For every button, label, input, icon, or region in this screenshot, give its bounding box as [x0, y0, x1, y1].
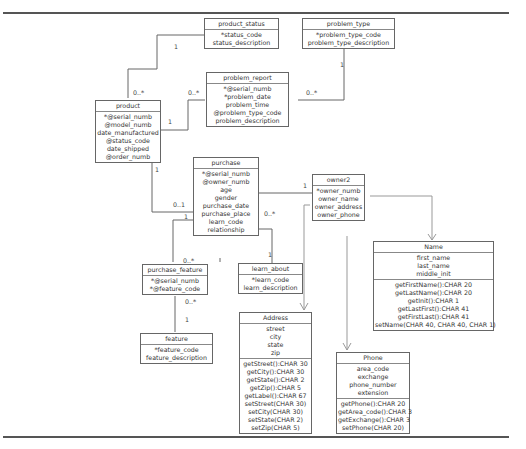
attribute: date_shipped: [97, 145, 159, 153]
attribute: @status_code: [97, 137, 159, 145]
class-title: Phone: [337, 353, 409, 364]
class-phone[interactable]: Phone area_code exchange phone_number ex…: [336, 352, 410, 434]
attribute: purchase_date: [195, 202, 257, 210]
mult-feature-many: 0..*: [185, 298, 196, 305]
method: getZip():CHAR 5: [241, 384, 310, 392]
entity-title: purchase_feature: [143, 265, 207, 276]
mult-purchase-feature-one: 1: [184, 213, 188, 220]
attribute: extension: [338, 389, 408, 397]
attribute: *@serial_numb: [208, 85, 287, 93]
class-address[interactable]: Address street city state zip getStreet(…: [239, 312, 312, 434]
attribute: zip: [241, 349, 310, 357]
class-name[interactable]: Name first_name last_name middle_init ge…: [373, 241, 494, 331]
attribute: middle_init: [375, 270, 492, 278]
entity-title: problem_type: [303, 19, 394, 30]
attribute: purchase_place: [195, 210, 257, 218]
class-title: Address: [240, 313, 311, 324]
attribute: last_name: [375, 262, 492, 270]
method: getLabel():CHAR 67: [241, 392, 310, 400]
entity-title: product: [96, 101, 160, 112]
method: setZip(CHAR 5): [241, 424, 310, 432]
attribute: owner_name: [314, 195, 363, 203]
attribute: status_description: [206, 39, 277, 47]
entity-problem-type[interactable]: problem_type *problem_type_code problem_…: [302, 18, 395, 49]
entity-title: purchase: [194, 158, 258, 169]
attribute: feature_description: [142, 354, 211, 362]
entity-title: problem_report: [207, 73, 288, 84]
attribute: relationship: [195, 226, 257, 234]
attribute: phone_number: [338, 381, 408, 389]
attribute: @problem_type_code: [208, 109, 287, 117]
mult-product-status-many: 0..*: [133, 89, 144, 96]
mult-feature-one: 1: [185, 316, 189, 323]
attribute: @order_numb: [97, 153, 159, 161]
method: getInit():CHAR 1: [375, 297, 492, 305]
mult-owner-purchase-one: 1: [303, 182, 307, 189]
method: getFirstLast():CHAR 41: [375, 313, 492, 321]
attribute: *problem_date: [208, 93, 287, 101]
attribute: *status_code: [206, 31, 277, 39]
method: getState():CHAR 2: [241, 376, 310, 384]
mult-product-status-one: 1: [174, 43, 178, 50]
mult-product-problem-one: 1: [168, 118, 172, 125]
entity-title: owner2: [313, 175, 364, 186]
method: setStreet(CHAR 30): [241, 400, 310, 408]
class-title: Name: [374, 242, 493, 253]
attribute: *owner_numb: [314, 187, 363, 195]
attribute: owner_phone: [314, 211, 363, 219]
entity-title: feature: [141, 334, 212, 345]
mult-purchase-feature-many: 0..*: [183, 257, 194, 264]
attribute: *@serial_numb: [97, 113, 159, 121]
method: getLastName():CHAR 20: [375, 289, 492, 297]
method: getPhone():CHAR 20: [338, 400, 408, 408]
entity-owner2[interactable]: owner2 *owner_numb owner_name owner_addr…: [312, 174, 365, 221]
entity-problem-report[interactable]: problem_report *@serial_numb *problem_da…: [206, 72, 289, 127]
method: setName(CHAR 40, CHAR 40, CHAR 1): [375, 321, 492, 329]
attribute: *@feature_code: [144, 285, 206, 293]
entity-feature[interactable]: feature *feature_code feature_descriptio…: [140, 333, 213, 364]
attribute: date_manufactured: [97, 129, 159, 137]
attribute: city: [241, 333, 310, 341]
attribute: *@serial_numb: [144, 277, 206, 285]
entity-purchase-feature[interactable]: purchase_feature *@serial_numb *@feature…: [142, 264, 208, 295]
attribute: problem_type_description: [304, 39, 393, 47]
entity-purchase[interactable]: purchase *@serial_numb @owner_numb age g…: [193, 157, 259, 236]
mult-product-purchase-one: 1: [155, 166, 159, 173]
attribute: learn_code: [195, 218, 257, 226]
attribute: state: [241, 341, 310, 349]
entity-product[interactable]: product *@serial_numb @model_numb date_m…: [95, 100, 161, 163]
mult-product-problem-many: 0..*: [188, 89, 199, 96]
attribute: area_code: [338, 365, 408, 373]
attribute: @owner_numb: [195, 178, 257, 186]
attribute: first_name: [375, 254, 492, 262]
attribute: *learn_code: [240, 276, 301, 284]
mult-product-purchase-zero-one: 0..1: [173, 201, 185, 208]
entity-product-status[interactable]: product_status *status_code status_descr…: [204, 18, 279, 49]
entity-learn-about[interactable]: learn_about *learn_code learn_descriptio…: [238, 263, 303, 294]
attribute: exchange: [338, 373, 408, 381]
entity-title: learn_about: [239, 264, 302, 275]
method: setCity(CHAR 30): [241, 408, 310, 416]
attribute: problem_description: [208, 117, 287, 125]
mult-problem-type-one: 1: [340, 61, 344, 68]
attribute: street: [241, 325, 310, 333]
attribute: *problem_type_code: [304, 31, 393, 39]
method: getArea_code():CHAR 3: [338, 408, 408, 416]
mult-learn-about-many: 0..*: [264, 210, 275, 217]
method: getStreet():CHAR 30: [241, 360, 310, 368]
attribute: problem_time: [208, 101, 287, 109]
method: getExchange():CHAR 3: [338, 416, 408, 424]
method: setPhone(CHAR 20): [338, 424, 408, 432]
attribute: @model_numb: [97, 121, 159, 129]
mult-learn-about-one: 1: [268, 251, 272, 258]
method: setState(CHAR 2): [241, 416, 310, 424]
attribute: owner_address: [314, 203, 363, 211]
method: getCity():CHAR 30: [241, 368, 310, 376]
method: getLastFirst():CHAR 41: [375, 305, 492, 313]
attribute: learn_description: [240, 284, 301, 292]
attribute: *feature_code: [142, 346, 211, 354]
attribute: age: [195, 186, 257, 194]
entity-title: product_status: [205, 19, 278, 30]
attribute: gender: [195, 194, 257, 202]
attribute: *@serial_numb: [195, 170, 257, 178]
